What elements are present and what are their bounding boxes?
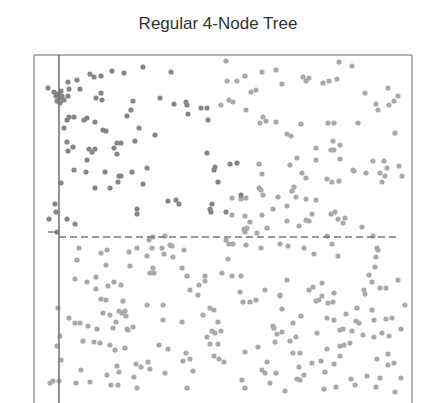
data-point xyxy=(184,385,189,390)
data-point xyxy=(385,85,390,90)
data-point xyxy=(377,285,382,290)
data-point xyxy=(242,213,247,218)
data-point xyxy=(293,334,298,339)
data-point xyxy=(296,364,301,369)
data-point xyxy=(362,291,367,296)
data-point xyxy=(109,68,114,73)
data-point xyxy=(45,85,50,90)
data-point xyxy=(324,176,329,181)
data-point xyxy=(279,306,284,311)
data-point xyxy=(131,374,136,379)
data-point xyxy=(107,312,112,317)
data-point xyxy=(255,344,260,349)
data-point xyxy=(334,76,339,81)
data-point xyxy=(183,350,188,355)
data-point xyxy=(168,69,173,74)
data-point xyxy=(298,121,303,126)
data-point xyxy=(369,279,374,284)
data-point xyxy=(341,342,346,347)
data-point xyxy=(259,69,264,74)
data-point xyxy=(377,170,382,175)
data-point xyxy=(104,372,109,377)
data-point xyxy=(204,150,209,155)
data-point xyxy=(297,350,302,355)
data-point xyxy=(72,221,77,226)
data-point xyxy=(243,107,248,112)
data-point xyxy=(64,139,69,144)
plot-frame xyxy=(34,55,412,403)
data-point xyxy=(299,170,304,175)
data-point xyxy=(331,317,336,322)
data-point xyxy=(225,256,230,261)
data-point xyxy=(157,95,162,100)
data-point xyxy=(84,279,89,284)
data-point xyxy=(115,382,120,387)
data-point xyxy=(215,341,220,346)
data-point xyxy=(65,93,70,98)
data-point xyxy=(215,179,220,184)
data-point xyxy=(370,233,375,238)
data-point xyxy=(331,361,336,366)
data-point xyxy=(297,377,302,382)
data-point xyxy=(160,302,165,307)
data-point xyxy=(87,379,92,384)
data-point xyxy=(156,342,161,347)
data-point xyxy=(116,369,121,374)
data-point xyxy=(73,380,78,385)
data-point xyxy=(243,242,248,247)
data-point xyxy=(349,63,354,68)
data-point xyxy=(110,325,115,330)
data-point xyxy=(66,315,71,320)
data-point xyxy=(303,175,308,180)
data-point xyxy=(112,347,117,352)
data-point xyxy=(74,77,79,82)
data-point xyxy=(111,145,116,150)
data-point xyxy=(72,276,77,281)
data-point xyxy=(140,64,145,69)
data-point xyxy=(326,78,331,83)
data-point xyxy=(340,220,345,225)
data-point xyxy=(306,75,311,80)
data-point xyxy=(229,195,234,200)
data-point xyxy=(64,216,69,221)
data-point xyxy=(272,339,277,344)
data-point xyxy=(195,292,200,297)
data-point xyxy=(379,330,384,335)
data-point xyxy=(84,157,89,162)
data-point xyxy=(66,86,71,91)
data-point xyxy=(152,132,157,137)
data-point xyxy=(92,119,97,124)
data-point xyxy=(212,164,217,169)
data-point xyxy=(114,151,119,156)
data-point xyxy=(362,90,367,95)
data-point xyxy=(71,114,76,119)
data-point xyxy=(321,386,326,391)
data-point xyxy=(374,356,379,361)
data-point xyxy=(113,319,118,324)
data-point xyxy=(329,179,334,184)
data-point xyxy=(337,156,342,161)
data-point xyxy=(234,78,239,83)
data-point xyxy=(162,233,167,238)
data-point xyxy=(301,245,306,250)
data-point xyxy=(185,111,190,116)
data-point xyxy=(277,241,282,246)
data-point xyxy=(128,107,133,112)
data-point xyxy=(218,328,223,333)
data-point xyxy=(104,247,109,252)
data-point xyxy=(179,319,184,324)
data-point xyxy=(241,226,246,231)
data-point xyxy=(253,297,258,302)
data-point xyxy=(102,169,107,174)
data-point xyxy=(298,313,303,318)
data-point xyxy=(271,325,276,330)
data-point xyxy=(150,265,155,270)
data-point xyxy=(335,253,340,258)
data-point xyxy=(262,370,267,375)
data-point xyxy=(238,273,243,278)
data-point xyxy=(165,346,170,351)
data-point xyxy=(242,349,247,354)
data-point xyxy=(144,302,149,307)
data-point xyxy=(320,80,325,85)
data-point xyxy=(184,102,189,107)
